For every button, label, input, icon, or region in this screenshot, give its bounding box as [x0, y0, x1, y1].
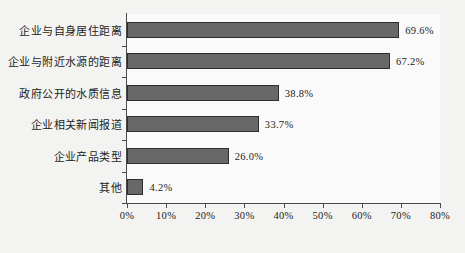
bar-row: 政府公开的水质信息38.8%: [0, 77, 465, 109]
x-axis-tick-label: 30%: [234, 210, 254, 221]
x-axis-tick-label: 80%: [430, 210, 450, 221]
bar-value-label: 38.8%: [285, 87, 314, 98]
x-axis-tick: [244, 204, 245, 208]
x-axis-tick-label: 10%: [156, 210, 176, 221]
bar-row: 企业与自身居住距离69.6%: [0, 14, 465, 46]
bar-value-label: 67.2%: [396, 56, 425, 67]
category-label: 其他: [99, 179, 122, 195]
x-axis-tick-label: 60%: [352, 210, 372, 221]
bar: [127, 53, 390, 69]
x-axis-tick: [362, 204, 363, 208]
category-label: 企业与自身居住距离: [19, 22, 122, 38]
category-label: 企业与附近水源的距离: [8, 53, 122, 69]
category-label: 企业产品类型: [54, 148, 122, 164]
bar-value-label: 4.2%: [149, 182, 172, 193]
x-axis-tick-label: 70%: [391, 210, 411, 221]
x-axis-tick: [284, 204, 285, 208]
bar-value-label: 33.7%: [265, 119, 294, 130]
bar-row: 其他4.2%: [0, 172, 465, 204]
x-axis-tick-label: 20%: [195, 210, 215, 221]
bar: [127, 85, 279, 101]
x-axis-tick: [166, 204, 167, 208]
bar: [127, 116, 259, 132]
x-axis-tick-label: 40%: [273, 210, 293, 221]
x-axis-tick: [401, 204, 402, 208]
y-axis-tick: [122, 203, 126, 204]
x-axis-tick: [323, 204, 324, 208]
x-axis-tick-label: 50%: [313, 210, 333, 221]
bar: [127, 148, 229, 164]
bar-chart: 企业与自身居住距离69.6%企业与附近水源的距离67.2%政府公开的水质信息38…: [0, 0, 465, 253]
bar-row: 企业相关新闻报道33.7%: [0, 109, 465, 141]
x-axis-tick: [127, 204, 128, 208]
bar-row: 企业与附近水源的距离67.2%: [0, 46, 465, 78]
x-axis-tick: [440, 204, 441, 208]
bar: [127, 22, 399, 38]
x-axis-tick: [205, 204, 206, 208]
bar-row: 企业产品类型26.0%: [0, 140, 465, 172]
bar: [127, 179, 143, 195]
bar-value-label: 69.6%: [405, 24, 434, 35]
bar-value-label: 26.0%: [235, 150, 264, 161]
category-label: 政府公开的水质信息: [19, 85, 122, 101]
category-label: 企业相关新闻报道: [31, 116, 122, 132]
x-axis-tick-label: 0%: [120, 210, 135, 221]
